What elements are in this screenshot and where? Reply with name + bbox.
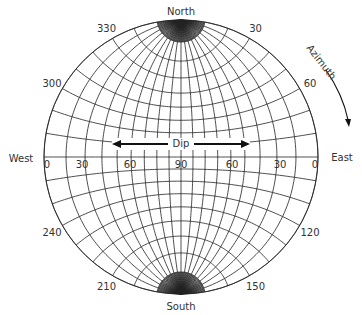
azimuth-label-120: 120 — [300, 227, 319, 238]
azimuth-label-330: 330 — [97, 23, 116, 34]
azimuth-label-150: 150 — [246, 281, 265, 292]
dip-label-90: 90 — [175, 159, 188, 170]
dip-label-30: 30 — [274, 159, 287, 170]
dip-label-60: 60 — [124, 159, 137, 170]
dip-label-30: 30 — [76, 159, 89, 170]
east-label: East — [331, 152, 353, 163]
azimuth-title: Azimuth — [304, 42, 338, 81]
azimuth-label-300: 300 — [42, 78, 61, 89]
stereonet: NorthSouthWestEast3060120150210240300330… — [0, 0, 362, 315]
dip-title: Dip — [173, 138, 190, 149]
azimuth-label-30: 30 — [249, 23, 262, 34]
dip-label-0: 0 — [312, 159, 318, 170]
azimuth-label-60: 60 — [304, 78, 317, 89]
west-label: West — [9, 153, 34, 164]
azimuth-label-240: 240 — [42, 227, 61, 238]
azimuth-arrow-head-icon — [345, 119, 351, 127]
net-grid — [44, 20, 318, 294]
south-label: South — [166, 301, 195, 312]
azimuth-label-210: 210 — [97, 281, 116, 292]
north-label: North — [167, 6, 195, 17]
dip-label-0: 0 — [44, 159, 50, 170]
dip-label-60: 60 — [226, 159, 239, 170]
